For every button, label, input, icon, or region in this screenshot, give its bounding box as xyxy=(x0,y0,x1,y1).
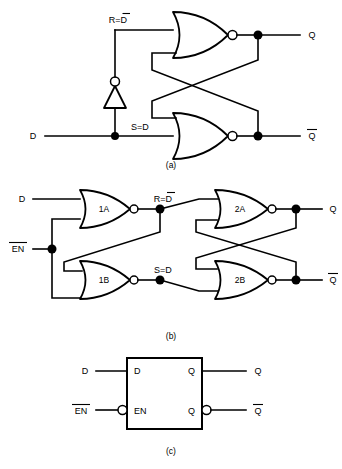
inverter-body-a xyxy=(104,86,126,108)
svg-text:Q: Q xyxy=(254,406,261,416)
nor-top-bubble-a xyxy=(228,31,237,40)
gate-label-1a: 1A xyxy=(99,204,110,214)
label-r-signal-b: R=D xyxy=(154,193,175,205)
label-d-input-a: D xyxy=(30,131,37,141)
nor-1a-bubble-b xyxy=(130,205,138,213)
en-input-bubble-c xyxy=(118,406,127,415)
nor-bottom-bubble-a xyxy=(228,132,237,141)
qbar-output-bubble-c xyxy=(202,406,211,415)
label-s-signal-b: S=D xyxy=(154,265,172,275)
svg-text:EN: EN xyxy=(75,406,88,416)
label-qbar-output-b: Q xyxy=(328,274,338,286)
pin-label-q-c: Q xyxy=(188,366,195,376)
svg-text:Q: Q xyxy=(329,275,336,285)
label-q-output-a: Q xyxy=(308,30,315,40)
label-qbar-external-c: Q xyxy=(253,405,263,417)
nor-gate-top-a xyxy=(173,12,228,58)
pin-label-qbar-c: Q xyxy=(188,406,195,416)
label-q-external-c: Q xyxy=(254,366,261,376)
part-c-group: D EN Q Q D EN Q Q (c) xyxy=(72,358,263,456)
figure-root: D R=D S=D Q Q (a) xyxy=(0,0,342,469)
wire-s-to-2b-b xyxy=(160,280,218,291)
gate-label-1b: 1B xyxy=(99,275,110,285)
label-d-input-b: D xyxy=(19,194,26,204)
caption-part-c: (c) xyxy=(166,446,176,456)
label-r-signal-a: R=D xyxy=(109,14,130,26)
nor-2b-bubble-b xyxy=(268,276,276,284)
part-a-group: D R=D S=D Q Q (a) xyxy=(30,12,317,170)
label-qbar-output-a: Q xyxy=(307,130,317,142)
circuit-diagram-svg: D R=D S=D Q Q (a) xyxy=(0,0,342,469)
nor-1b-bubble-b xyxy=(130,276,138,284)
label-d-external-c: D xyxy=(82,366,89,376)
gate-label-2a: 2A xyxy=(235,204,246,214)
svg-text:Q: Q xyxy=(308,131,315,141)
inverter-bubble-a xyxy=(111,77,120,86)
label-enbar-input-b: EN xyxy=(9,243,27,255)
pin-label-en-c: EN xyxy=(134,406,147,416)
wire-enbar-to-1a-b xyxy=(52,219,80,249)
label-q-output-b: Q xyxy=(329,204,336,214)
nor-gate-bottom-a xyxy=(173,113,228,159)
svg-text:R=D: R=D xyxy=(109,15,128,25)
pin-label-d-c: D xyxy=(134,366,141,376)
svg-text:EN: EN xyxy=(12,244,25,254)
svg-text:R=D: R=D xyxy=(154,194,173,204)
nor-2a-bubble-b xyxy=(268,205,276,213)
caption-part-a: (a) xyxy=(166,160,177,170)
part-b-group: 1A 1B 2A 2B xyxy=(9,190,338,341)
gate-label-2b: 2B xyxy=(235,275,246,285)
wire-enbar-to-1b-b xyxy=(52,249,80,298)
caption-part-b: (b) xyxy=(166,331,177,341)
label-enbar-external-c: EN xyxy=(72,405,90,417)
label-s-signal-a: S=D xyxy=(131,122,149,132)
